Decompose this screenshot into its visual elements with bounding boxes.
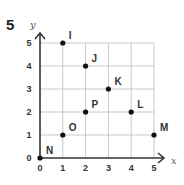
question-number: 5: [6, 16, 14, 33]
y-tick-label: 5: [26, 38, 31, 48]
point-label: N: [46, 145, 53, 156]
point-dot-icon: [37, 155, 42, 160]
y-tick-label: 0: [26, 153, 31, 163]
x-tick-label: 2: [83, 163, 88, 173]
axes: x y: [29, 19, 177, 166]
y-tick-label: 1: [26, 130, 31, 140]
y-tick-label: 4: [26, 61, 31, 71]
point-dot-icon: [129, 109, 134, 114]
point-label: J: [92, 53, 98, 64]
x-tick-label: 1: [60, 163, 65, 173]
y-tick-label: 3: [26, 84, 31, 94]
point-dot-icon: [106, 86, 111, 91]
x-axis-label: x: [171, 155, 177, 166]
point-dot-icon: [83, 63, 88, 68]
point-label: K: [114, 76, 122, 87]
data-points: IJKLMNOP: [37, 30, 168, 161]
point-dot-icon: [60, 40, 65, 45]
coordinate-plane: 5 x y 012345012345 IJKLMNOP: [0, 0, 184, 185]
x-tick-label: 0: [37, 163, 42, 173]
point-dot-icon: [151, 132, 156, 137]
x-tick-label: 3: [106, 163, 111, 173]
x-tick-label: 4: [129, 163, 134, 173]
point-label: L: [137, 99, 143, 110]
point-dot-icon: [60, 132, 65, 137]
point-label: P: [92, 99, 99, 110]
x-tick-label: 5: [151, 163, 156, 173]
point-label: M: [160, 122, 168, 133]
y-axis-label: y: [29, 19, 36, 30]
point-label: I: [69, 30, 72, 41]
point-label: O: [69, 122, 77, 133]
y-tick-label: 2: [26, 107, 31, 117]
point-dot-icon: [83, 109, 88, 114]
